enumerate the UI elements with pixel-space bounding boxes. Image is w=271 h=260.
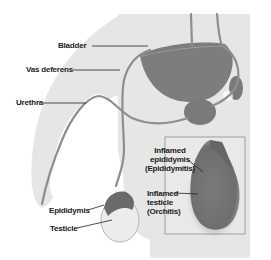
label-epididymis: Epididymis [49, 206, 90, 215]
anatomy-illustration [0, 0, 271, 260]
label-urethra: Urethra [16, 98, 43, 107]
label-testicle: Testicle [50, 224, 78, 233]
anatomy-diagram: Bladder Vas deferens Urethra Epididymis … [0, 0, 271, 260]
prostate [184, 99, 216, 125]
label-inflamed-epididymis: Inflamed epididymis (Epididymitis) [140, 146, 200, 173]
label-inflamed-testicle: Inflamed testicle (Orchitis) [147, 189, 181, 216]
label-vas-deferens: Vas deferens [26, 65, 73, 74]
label-bladder: Bladder [58, 41, 86, 50]
